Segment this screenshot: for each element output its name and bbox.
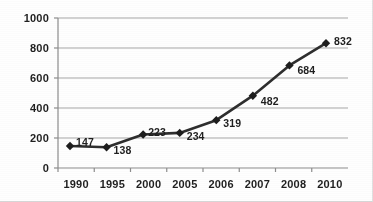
- data-point-marker: [102, 143, 110, 151]
- x-tick-label: 2007: [237, 179, 277, 190]
- x-tick-label: 2000: [129, 179, 169, 190]
- data-point-label: 234: [187, 131, 205, 142]
- x-tick-label: 2008: [274, 179, 314, 190]
- plot-area: [0, 0, 373, 202]
- data-point-label: 223: [148, 127, 166, 138]
- data-point-label: 147: [76, 137, 94, 148]
- x-tick-label: 1990: [56, 179, 96, 190]
- data-point-label: 319: [223, 118, 241, 129]
- data-point-label: 138: [114, 145, 132, 156]
- gridlines: [58, 18, 348, 138]
- y-tick-label: 400: [30, 103, 49, 114]
- data-point-label: 832: [334, 36, 352, 47]
- data-point-marker: [66, 142, 74, 150]
- axes: [58, 18, 348, 168]
- y-tick-label: 800: [30, 43, 49, 54]
- x-tick-label: 2010: [310, 179, 350, 190]
- data-point-label: 482: [261, 96, 279, 107]
- data-point-marker: [139, 130, 147, 138]
- x-tick-label: 1995: [92, 179, 132, 190]
- y-tick-label: 0: [43, 163, 49, 174]
- y-tick-label: 200: [30, 133, 49, 144]
- data-point-label: 684: [297, 65, 315, 76]
- x-tick-label: 2006: [201, 179, 241, 190]
- x-tick-label: 2005: [165, 179, 205, 190]
- data-point-marker: [176, 129, 184, 137]
- y-tick-label: 600: [30, 73, 49, 84]
- y-tick-label: 1000: [24, 13, 49, 24]
- line-chart: 02004006008001000 1990199520002005200620…: [0, 0, 373, 202]
